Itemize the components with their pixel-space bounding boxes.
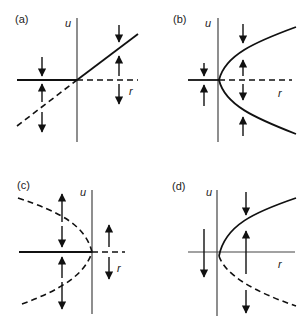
panel-b: (b) u r [173, 13, 296, 142]
bifurcation-figure: (a) u r (b) u r (c) u r [0, 0, 308, 323]
panel-label-c: (c) [17, 179, 30, 191]
stable-branch [219, 198, 296, 256]
u-axis-label: u [80, 186, 86, 198]
panel-a: (a) u r [15, 13, 138, 142]
panel-label-d: (d) [172, 180, 185, 192]
r-axis-label: r [278, 87, 283, 99]
r-axis-label: r [117, 262, 122, 274]
panel-label-b: (b) [173, 13, 186, 25]
unstable-branch [17, 80, 77, 126]
stable-branch [77, 34, 138, 80]
panel-c: (c) u r [17, 179, 125, 314]
u-axis-label: u [205, 17, 211, 29]
unstable-branch [18, 198, 92, 304]
r-axis-label: r [278, 258, 283, 270]
panel-label-a: (a) [15, 13, 28, 25]
u-axis-label: u [65, 17, 71, 29]
r-axis-label: r [129, 85, 134, 97]
panel-d: (d) u r [172, 180, 296, 316]
unstable-branch [219, 256, 296, 306]
u-axis-label: u [206, 186, 212, 198]
